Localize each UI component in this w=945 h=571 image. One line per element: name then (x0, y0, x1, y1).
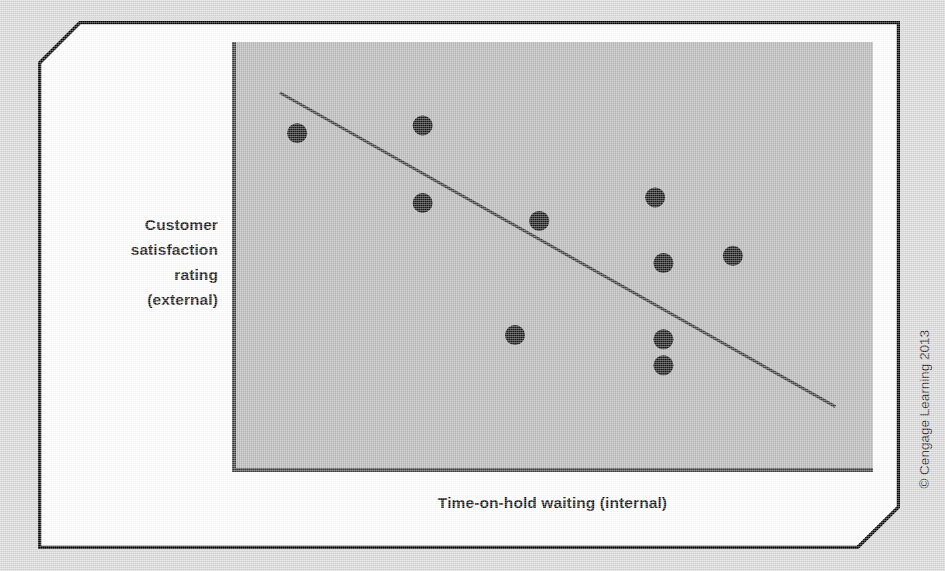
plot-svg (232, 42, 873, 472)
data-point (287, 123, 307, 143)
x-axis-label: Time-on-hold waiting (internal) (232, 494, 873, 512)
data-point (529, 211, 549, 231)
data-point (723, 246, 743, 266)
data-point (645, 187, 665, 207)
y-axis-label-line-3: rating (60, 262, 218, 287)
copyright-credit: © Cengage Learning 2013 (913, 330, 935, 550)
copyright-credit-text: © Cengage Learning 2013 (917, 330, 932, 489)
data-point (413, 115, 433, 135)
data-point (413, 193, 433, 213)
scatter-plot (232, 42, 873, 472)
data-point (505, 325, 525, 345)
trend-line (280, 93, 835, 407)
data-points (287, 115, 743, 375)
y-axis-label-line-1: Customer (60, 212, 218, 237)
y-axis-label-line-4: (external) (60, 287, 218, 312)
data-point (653, 329, 673, 349)
data-point (653, 355, 673, 375)
y-axis-label-line-2: satisfaction (60, 237, 218, 262)
trend-line-segment (280, 93, 835, 407)
data-point (653, 253, 673, 273)
y-axis-label: Customer satisfaction rating (external) (60, 212, 218, 312)
